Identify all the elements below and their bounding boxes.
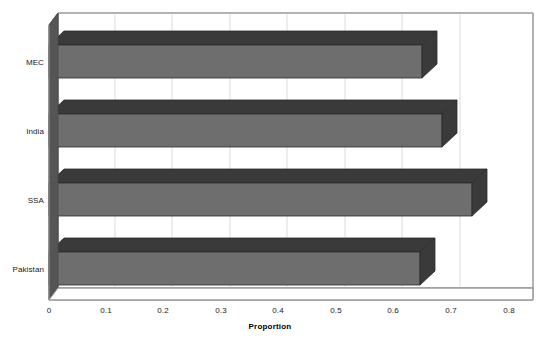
xtick-label-2: 0.2 — [153, 306, 173, 315]
bar-pakistan-top — [49, 238, 435, 252]
bar-mec-front — [49, 45, 422, 78]
xtick-label-4: 0.4 — [268, 306, 288, 315]
xtick-label-5: 0.5 — [326, 306, 346, 315]
category-label-india: India — [0, 127, 44, 136]
category-label-pakistan: Pakistan — [0, 265, 44, 274]
x-axis-title: Proportion — [200, 322, 340, 331]
bar-india — [49, 100, 457, 147]
category-label-mec: MEC — [0, 58, 44, 67]
plot-left-wall-overlay — [49, 13, 58, 300]
xtick-label-8: 0.8 — [499, 306, 519, 315]
bar-india-front — [49, 114, 442, 147]
chart-canvas — [0, 0, 540, 344]
category-label-ssa: SSA — [0, 196, 44, 205]
bar-ssa — [49, 169, 487, 216]
bar-india-top — [49, 100, 457, 114]
xtick-label-0: 0 — [39, 306, 59, 315]
xtick-label-6: 0.6 — [383, 306, 403, 315]
bar-ssa-front — [49, 183, 472, 216]
xtick-label-7: 0.7 — [441, 306, 461, 315]
bar-pakistan — [49, 238, 435, 285]
bar-mec — [49, 31, 437, 78]
bar-mec-top — [49, 31, 437, 45]
xtick-label-1: 0.1 — [96, 306, 116, 315]
bar-pakistan-front — [49, 252, 420, 285]
bar-ssa-top — [49, 169, 487, 183]
plot-floor-overlay — [49, 288, 533, 300]
bar-chart: MEC India SSA Pakistan 0 0.1 0.2 0.3 0.4… — [0, 0, 540, 344]
xtick-label-3: 0.3 — [211, 306, 231, 315]
